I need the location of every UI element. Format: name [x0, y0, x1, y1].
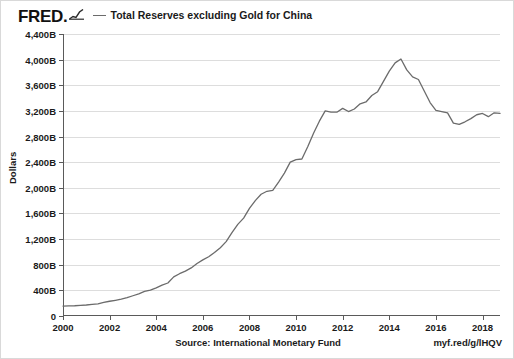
x-tick-label: 2002: [99, 322, 120, 333]
x-tick-mark: [436, 316, 437, 320]
y-tick-label: 2,400B: [25, 157, 56, 168]
chart-header: FRED. Total Reserves excluding Gold for …: [1, 1, 514, 29]
short-url-link[interactable]: myf.red/g/lHQV: [433, 337, 502, 348]
y-tick-label: 800B: [33, 259, 56, 270]
y-tick-label: 2,800B: [25, 131, 56, 142]
x-tick-mark: [203, 316, 204, 320]
x-tick-label: 2000: [52, 322, 73, 333]
fred-logo: FRED.: [18, 6, 84, 25]
y-tick-label: 3,600B: [25, 80, 56, 91]
fred-wordmark: FRED.: [18, 8, 68, 25]
y-tick-label: 4,000B: [25, 54, 56, 65]
y-tick-label: 1,200B: [25, 234, 56, 245]
y-axis-title: Dollars: [7, 152, 18, 184]
y-tick-label: 4,400B: [25, 29, 56, 40]
x-tick-label: 2006: [192, 322, 213, 333]
series-line-total-reserves: [63, 34, 500, 316]
x-tick-mark: [483, 316, 484, 320]
x-tick-mark: [63, 316, 64, 320]
plot-frame: 0400B800B1,200B1,600B2,000B2,400B2,800B3…: [63, 34, 500, 316]
x-tick-label: 2008: [239, 322, 260, 333]
y-tick-label: 400B: [33, 285, 56, 296]
legend-swatch-icon: [93, 15, 106, 16]
y-tick-label: 0: [51, 311, 56, 322]
x-tick-label: 2018: [472, 322, 493, 333]
legend-label: Total Reserves excluding Gold for China: [111, 9, 313, 21]
x-tick-mark: [249, 316, 250, 320]
x-tick-label: 2010: [285, 322, 306, 333]
x-tick-label: 2004: [146, 322, 167, 333]
y-tick-label: 3,200B: [25, 105, 56, 116]
x-tick-mark: [110, 316, 111, 320]
fred-chart-card: FRED. Total Reserves excluding Gold for …: [0, 0, 514, 359]
x-tick-mark: [389, 316, 390, 320]
chart-footer: Source: International Monetary Fund myf.…: [1, 337, 514, 351]
legend-entry: Total Reserves excluding Gold for China: [93, 9, 313, 21]
y-tick-label: 2,000B: [25, 182, 56, 193]
x-tick-label: 2014: [379, 322, 400, 333]
x-tick-mark: [343, 316, 344, 320]
sparkline-icon: [69, 6, 84, 24]
y-tick-label: 1,600B: [25, 208, 56, 219]
x-tick-mark: [156, 316, 157, 320]
x-tick-label: 2016: [425, 322, 446, 333]
x-tick-label: 2012: [332, 322, 353, 333]
x-tick-mark: [296, 316, 297, 320]
